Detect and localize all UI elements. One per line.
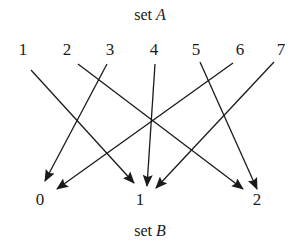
set-b-title-var: B xyxy=(156,222,166,239)
arrow-1-to-1 xyxy=(31,70,134,183)
mapping-diagram: set A 1 2 3 4 5 6 7 0 1 2 set B xyxy=(0,0,299,248)
set-b-title-prefix: set xyxy=(134,222,152,239)
arrow-4-to-1 xyxy=(147,64,155,186)
arrow-3-to-0 xyxy=(45,64,107,181)
set-b-title: set B xyxy=(110,222,190,240)
arrow-2-to-2 xyxy=(78,64,243,189)
arrow-7-to-1 xyxy=(156,62,274,188)
set-b-element-1: 1 xyxy=(130,191,150,209)
arrows-layer xyxy=(0,0,299,248)
set-b-element-2: 2 xyxy=(247,191,267,209)
arrow-6-to-0 xyxy=(57,63,233,189)
set-b-element-0: 0 xyxy=(30,191,50,209)
